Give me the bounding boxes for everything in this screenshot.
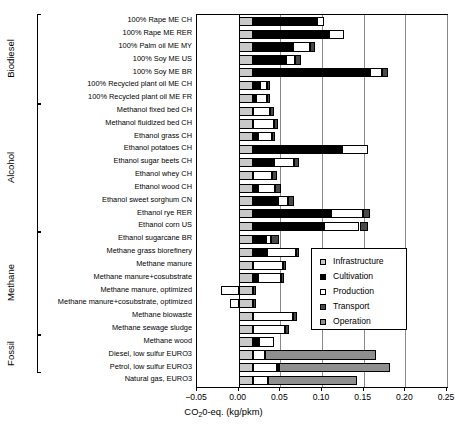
bar-segment-infrastructure bbox=[239, 376, 254, 385]
bar-segment-transport bbox=[267, 94, 270, 103]
legend-label: Production bbox=[333, 286, 374, 296]
x-tick-label: 0.00 bbox=[218, 392, 258, 402]
row-label: Ethanol sugar beets CH bbox=[114, 157, 192, 165]
bar-segment-transport bbox=[382, 68, 388, 77]
bar-segment-transport bbox=[283, 261, 286, 270]
bar-segment-production bbox=[370, 68, 383, 77]
bar-row bbox=[197, 350, 447, 359]
gridline-0.25 bbox=[447, 15, 448, 387]
legend-swatch-production bbox=[320, 289, 326, 295]
row-label: 100% Rape ME RER bbox=[123, 29, 192, 37]
row-label: Ethanol rye RER bbox=[137, 209, 192, 217]
bar-segment-cultivation bbox=[253, 209, 331, 218]
bar-row bbox=[197, 158, 447, 167]
bar-segment-infrastructure bbox=[239, 107, 254, 116]
bar-segment-infrastructure bbox=[239, 158, 254, 167]
bar-segment-infrastructure bbox=[239, 235, 254, 244]
bar-segment-transport bbox=[295, 55, 301, 64]
bar-segment-production bbox=[253, 171, 272, 180]
row-label: Methane manure bbox=[136, 260, 192, 268]
bar-segment-infrastructure bbox=[239, 350, 254, 359]
bar-segment-cultivation bbox=[253, 68, 369, 77]
row-label: 100% Rape ME CH bbox=[128, 16, 193, 24]
legend-swatch-cultivation bbox=[320, 274, 326, 280]
bar-segment-operation bbox=[268, 376, 357, 385]
bar-segment-cultivation bbox=[253, 235, 266, 244]
bar-segment-production bbox=[253, 350, 264, 359]
legend-label: Infrastructure bbox=[333, 256, 384, 266]
bar-segment-production bbox=[329, 30, 345, 39]
bar-segment-infrastructure bbox=[239, 30, 254, 39]
x-axis-title: CO20-eq. (kg/pkm) bbox=[0, 406, 447, 417]
x-tick bbox=[446, 387, 447, 391]
row-label: Methane grass biorefinery bbox=[107, 247, 192, 255]
bar-segment-transport bbox=[296, 248, 299, 257]
row-label: 100% Recycled plant oil ME FR bbox=[88, 93, 192, 101]
row-label: Methane wood bbox=[144, 337, 192, 345]
x-tick-label: 0.10 bbox=[301, 392, 341, 402]
bar-segment-operation bbox=[279, 363, 390, 372]
bar-segment-production bbox=[274, 158, 294, 167]
bar-row bbox=[197, 196, 447, 205]
bar-segment-infrastructure bbox=[239, 261, 254, 270]
bar-segment-infrastructure bbox=[239, 145, 254, 154]
row-label: Methane manure, optimized bbox=[100, 286, 192, 294]
bar-segment-transport bbox=[271, 235, 279, 244]
bar-segment-infrastructure bbox=[239, 17, 254, 26]
bar-segment-transport bbox=[360, 222, 369, 231]
row-label: Methane manure+cosubstrate, optimized bbox=[58, 298, 192, 306]
row-label: Ethanol potatoes CH bbox=[124, 144, 192, 152]
bar-segment-production bbox=[293, 42, 310, 51]
x-tick-label: −0.05 bbox=[176, 392, 216, 402]
x-tick-label: 0.15 bbox=[343, 392, 383, 402]
bar-row bbox=[197, 184, 447, 193]
x-tick-label: 0.20 bbox=[384, 392, 424, 402]
group-bracket-methane bbox=[37, 232, 41, 335]
bar-segment-production bbox=[258, 184, 275, 193]
bar-segment-infrastructure bbox=[239, 42, 254, 51]
bar-segment-transport bbox=[310, 42, 315, 51]
row-label: Methanol fixed bed CH bbox=[117, 106, 192, 114]
legend-swatch-operation bbox=[320, 319, 326, 325]
plot-area bbox=[196, 14, 448, 388]
bar-segment-cultivation bbox=[253, 158, 273, 167]
bar-segment-production bbox=[253, 363, 277, 372]
bar-row bbox=[197, 42, 447, 51]
x-tick bbox=[238, 387, 239, 391]
bar-segment-production bbox=[253, 376, 268, 385]
row-label: Ethanol whey CH bbox=[135, 170, 192, 178]
bar-row bbox=[197, 30, 447, 39]
bar-segment-cultivation bbox=[253, 248, 267, 257]
bar-segment-production bbox=[278, 196, 288, 205]
group-bracket-alcohol bbox=[37, 104, 41, 232]
bar-segment-transport bbox=[272, 171, 277, 180]
legend-swatch-infrastructure bbox=[320, 259, 326, 265]
row-label: Methane biowaste bbox=[132, 311, 192, 319]
bar-segment-cultivation bbox=[253, 145, 342, 154]
bar-segment-production bbox=[253, 261, 283, 270]
bar-segment-production bbox=[253, 312, 293, 321]
group-bracket-fossil bbox=[37, 335, 41, 373]
bar-segment-infrastructure bbox=[239, 94, 254, 103]
row-label: Ethanol sweet sorghum CN bbox=[102, 196, 192, 204]
bar-segment-production bbox=[259, 337, 274, 346]
bar-segment-infrastructure bbox=[239, 299, 254, 308]
bar-row bbox=[197, 68, 447, 77]
bar-segment-production bbox=[331, 209, 364, 218]
legend-label: Transport bbox=[333, 301, 369, 311]
row-label: Ethanol corn US bbox=[138, 221, 192, 229]
bar-segment-infrastructure bbox=[239, 312, 254, 321]
bar-row bbox=[197, 376, 447, 385]
bar-segment-infrastructure bbox=[239, 184, 254, 193]
x-tick bbox=[196, 387, 197, 391]
bar-segment-production bbox=[253, 119, 274, 128]
bar-segment-infrastructure bbox=[239, 222, 254, 231]
bar-segment-transport bbox=[253, 286, 256, 295]
bar-segment-cultivation bbox=[253, 55, 286, 64]
x-tick bbox=[321, 387, 322, 391]
row-label: Methane manure+cosubstrate bbox=[94, 273, 192, 281]
bar-segment-production bbox=[221, 286, 239, 295]
bar-segment-transport bbox=[253, 299, 256, 308]
bar-segment-production bbox=[267, 248, 296, 257]
bar-segment-transport bbox=[293, 312, 297, 321]
